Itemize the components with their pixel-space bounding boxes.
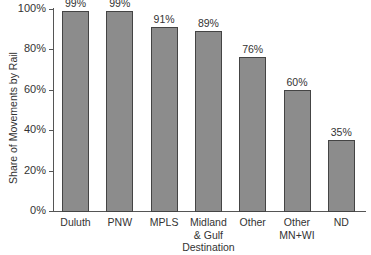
- y-tick-label: 60%: [4, 83, 46, 95]
- bar: [239, 57, 266, 212]
- y-tick: [49, 49, 53, 50]
- bar: [284, 90, 311, 212]
- y-tick: [49, 90, 53, 91]
- y-tick-label: 80%: [4, 42, 46, 54]
- bar-value-label: 76%: [233, 43, 273, 55]
- bar-value-label: 35%: [321, 126, 361, 138]
- bar: [106, 11, 133, 212]
- y-tick: [49, 130, 53, 131]
- y-tick: [49, 211, 53, 212]
- bar-value-label: 99%: [100, 0, 140, 9]
- y-axis: [53, 8, 54, 212]
- y-tick-label: 20%: [4, 164, 46, 176]
- bar: [62, 11, 89, 212]
- bar-chart: Share of Movements by Rail 0%20%40%60%80…: [0, 0, 371, 255]
- bar: [328, 140, 355, 212]
- x-category-label: ND: [311, 216, 371, 229]
- bar: [195, 31, 222, 212]
- y-tick: [49, 171, 53, 172]
- y-tick-label: 40%: [4, 123, 46, 135]
- bar-value-label: 60%: [277, 76, 317, 88]
- bar: [151, 27, 178, 212]
- bar-value-label: 89%: [188, 17, 228, 29]
- bar-value-label: 91%: [144, 13, 184, 25]
- y-tick-label: 100%: [4, 2, 46, 14]
- y-tick: [49, 9, 53, 10]
- y-tick-label: 0%: [4, 204, 46, 216]
- bar-value-label: 99%: [56, 0, 96, 9]
